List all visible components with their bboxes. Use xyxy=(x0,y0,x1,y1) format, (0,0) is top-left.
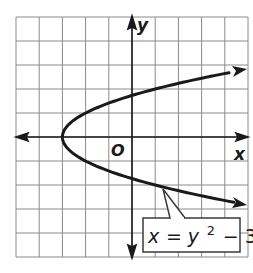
x-axis-label: x xyxy=(233,144,246,164)
x-axis-left-arrow-icon xyxy=(16,133,28,141)
equation-callout: x = y 2 − 3 xyxy=(143,189,253,252)
y-axis-down-arrow-icon xyxy=(128,245,136,258)
curve-upper-arrow-icon xyxy=(232,66,247,77)
y-axis-up-arrow-icon xyxy=(128,16,136,29)
x-axis-right-arrow-icon xyxy=(236,133,248,141)
y-axis-label: y xyxy=(137,15,149,35)
origin-label: O xyxy=(111,141,125,160)
graph: y x O x = y 2 − 3 xyxy=(0,0,253,273)
